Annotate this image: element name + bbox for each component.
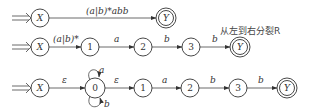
row-2: (a|b)* a b b X 1 2 3 Y (12, 34, 250, 57)
edge-label: (a|b)*abb (86, 6, 129, 17)
state-1: 1 (81, 38, 99, 56)
svg-text:a: a (162, 75, 167, 85)
nfa-diagram: 从左到右分裂R (a|b)*abb X Y (a|b)* a b (0, 0, 310, 111)
svg-text:a: a (114, 34, 119, 44)
start-arrow-icon (12, 13, 31, 23)
start-arrow-icon (12, 42, 31, 52)
svg-text:1: 1 (140, 83, 146, 93)
state-3: 3 (182, 38, 200, 56)
svg-text:ε: ε (62, 75, 67, 85)
row-1: (a|b)*abb X Y (12, 6, 176, 28)
svg-text:2: 2 (140, 42, 146, 52)
svg-text:X: X (36, 42, 44, 52)
state-x: X (31, 38, 49, 56)
state-3: 3 (229, 79, 247, 97)
state-2: 2 (134, 38, 152, 56)
svg-text:b: b (164, 34, 170, 44)
svg-text:(a|b)*: (a|b)* (53, 34, 79, 45)
state-x: X (31, 79, 49, 97)
svg-text:1: 1 (87, 42, 93, 52)
svg-text:b: b (212, 34, 218, 44)
svg-text:b: b (210, 75, 216, 85)
state-y-final: Y (156, 8, 176, 28)
svg-text:b: b (104, 99, 110, 109)
svg-text:3: 3 (188, 42, 194, 52)
svg-text:ε: ε (114, 75, 119, 85)
state-1: 1 (134, 79, 152, 97)
svg-text:X: X (36, 83, 44, 93)
start-arrow-icon (12, 83, 31, 93)
svg-text:3: 3 (235, 83, 241, 93)
svg-text:Y: Y (284, 83, 291, 93)
state-2: 2 (181, 79, 199, 97)
state-0: 0 (85, 78, 105, 98)
svg-text:Y: Y (237, 42, 244, 52)
state-x: X (31, 9, 49, 27)
svg-text:2: 2 (187, 83, 193, 93)
svg-text:a: a (99, 65, 104, 75)
svg-text:b: b (258, 75, 264, 85)
state-y-final: Y (230, 37, 250, 57)
split-note: 从左到右分裂R (220, 25, 280, 36)
svg-text:Y: Y (163, 13, 170, 23)
svg-text:X: X (36, 13, 44, 23)
row-3: ε a b ε a b b X 0 1 2 3 (12, 65, 297, 109)
svg-text:0: 0 (92, 83, 98, 93)
state-y-final: Y (277, 78, 297, 98)
